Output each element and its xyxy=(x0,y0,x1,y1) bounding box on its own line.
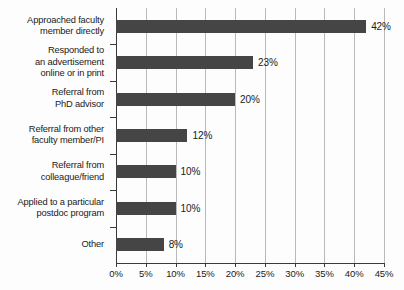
category-label-line: Referral from other xyxy=(0,124,104,136)
category-label: Referral fromcolleague/friend xyxy=(0,160,104,183)
category-label: Applied to a particularpostdoc program xyxy=(0,197,104,220)
x-tick-10 xyxy=(176,263,177,267)
bar xyxy=(116,129,187,142)
category-label-line: an advertisement xyxy=(0,57,104,69)
category-label-line: Approached faculty xyxy=(0,15,104,27)
x-tick-0 xyxy=(116,263,117,267)
x-tick-25 xyxy=(265,263,266,267)
x-tick-15 xyxy=(205,263,206,267)
bar xyxy=(116,20,366,33)
category-label-line: colleague/friend xyxy=(0,172,104,184)
bar xyxy=(116,238,164,251)
category-label: Referral fromPhD advisor xyxy=(0,87,104,110)
bar-value-label: 10% xyxy=(181,202,201,215)
x-tick-5 xyxy=(146,263,147,267)
x-tick-30 xyxy=(295,263,296,267)
category-label-line: PhD advisor xyxy=(0,99,104,111)
bar xyxy=(116,165,176,178)
x-tick-40 xyxy=(354,263,355,267)
category-label-line: Referral from xyxy=(0,160,104,172)
x-tick-label-45: 45% xyxy=(364,268,404,279)
category-label-line: Referral from xyxy=(0,87,104,99)
category-label-line: member directly xyxy=(0,26,104,38)
x-tick-45 xyxy=(384,263,385,267)
category-label-line: Responded to xyxy=(0,45,104,57)
bar-chart: 0%5%10%15%20%25%30%35%40%45% 42%23%20%12… xyxy=(0,0,404,290)
bar-value-label: 20% xyxy=(240,93,260,106)
bar-value-label: 42% xyxy=(371,20,391,33)
category-label-line: postdoc program xyxy=(0,208,104,220)
gridline-40 xyxy=(354,8,355,263)
bar xyxy=(116,202,176,215)
category-label: Approached facultymember directly xyxy=(0,15,104,38)
category-label-line: faculty member/PI xyxy=(0,135,104,147)
gridline-35 xyxy=(324,8,325,263)
bar-value-label: 10% xyxy=(181,165,201,178)
category-label-line: Other xyxy=(0,239,104,251)
category-label-line: online or in print xyxy=(0,68,104,80)
bar xyxy=(116,56,253,69)
gridline-25 xyxy=(265,8,266,263)
category-label: Other xyxy=(0,239,104,251)
x-tick-20 xyxy=(235,263,236,267)
gridline-45 xyxy=(384,8,385,263)
bar-value-label: 12% xyxy=(192,129,212,142)
category-label: Responded toan advertisementonline or in… xyxy=(0,45,104,80)
bar xyxy=(116,93,235,106)
gridline-30 xyxy=(295,8,296,263)
x-tick-35 xyxy=(324,263,325,267)
x-axis-line xyxy=(116,263,385,264)
gridline-20 xyxy=(235,8,236,263)
bar-value-label: 8% xyxy=(169,238,183,251)
category-label-line: Applied to a particular xyxy=(0,197,104,209)
category-label: Referral from otherfaculty member/PI xyxy=(0,124,104,147)
bar-value-label: 23% xyxy=(258,56,278,69)
